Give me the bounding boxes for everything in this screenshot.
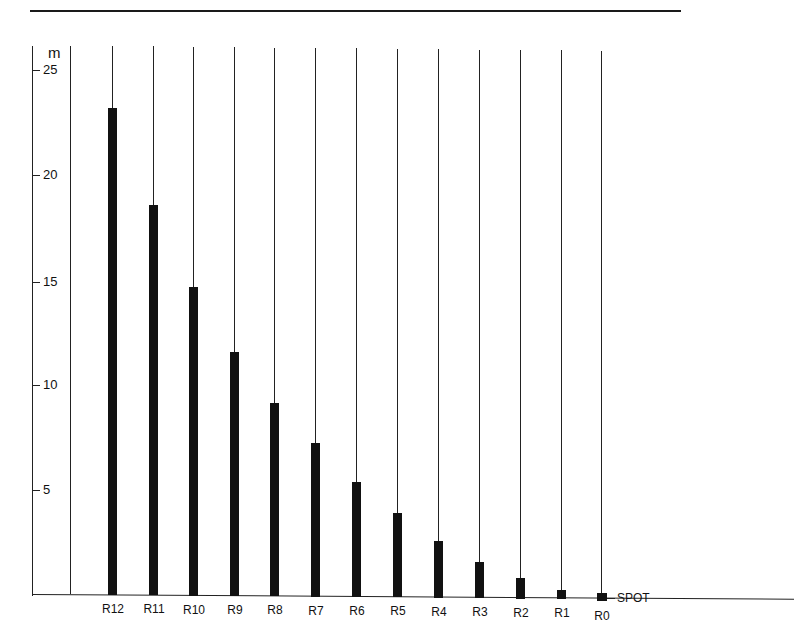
bar-r8	[270, 403, 279, 596]
guide-line	[601, 51, 602, 597]
x-label-r5: R5	[390, 604, 405, 618]
guide-line	[193, 47, 194, 287]
y-tick-label: 20	[43, 167, 57, 182]
bar-r3	[475, 562, 484, 598]
bar-r5	[393, 513, 402, 597]
bar-r0	[597, 593, 607, 601]
y-tick	[32, 175, 40, 176]
x-label-r8: R8	[267, 603, 282, 617]
spot-leader-line	[607, 598, 615, 599]
bar-r1	[557, 590, 566, 598]
y-tick	[32, 70, 40, 71]
bar-r7	[311, 443, 320, 596]
bar-r12	[108, 108, 117, 595]
x-label-r0: R0	[594, 609, 609, 623]
x-label-r12: R12	[102, 602, 124, 616]
bar-r6	[352, 482, 361, 598]
guide-line	[479, 50, 480, 563]
x-label-r4: R4	[431, 605, 446, 619]
top-rule	[30, 10, 681, 12]
spot-label: SPOT	[617, 591, 650, 605]
x-label-r2: R2	[513, 606, 528, 620]
y-tick	[32, 385, 40, 386]
y-axis	[32, 46, 33, 596]
guide-line	[438, 49, 439, 541]
x-label-r9: R9	[227, 603, 242, 617]
guide-line	[397, 49, 398, 514]
guide-line	[356, 48, 357, 481]
y-tick	[32, 490, 40, 491]
x-label-r3: R3	[472, 605, 487, 619]
guide-line	[315, 48, 316, 443]
y-tick	[32, 282, 40, 283]
x-label-r6: R6	[349, 604, 364, 618]
guide-line	[112, 46, 113, 108]
x-label-r10: R10	[183, 603, 205, 617]
x-label-r1: R1	[554, 606, 569, 620]
bar-r10	[189, 287, 198, 596]
x-label-r7: R7	[308, 604, 323, 618]
guide-line	[153, 46, 154, 204]
bar-r11	[149, 205, 158, 596]
y-tick-label: 15	[43, 274, 57, 289]
y-axis-unit: m	[48, 44, 61, 61]
guide-line	[561, 50, 562, 590]
guide-line	[70, 46, 71, 594]
y-tick-label: 25	[43, 62, 57, 77]
y-tick-label: 5	[43, 482, 50, 497]
guide-line	[520, 50, 521, 578]
y-tick-label: 10	[43, 377, 57, 392]
guide-line	[274, 48, 275, 404]
guide-line	[234, 47, 235, 352]
x-axis	[32, 594, 794, 600]
x-label-r11: R11	[143, 602, 164, 616]
bar-r2	[516, 578, 525, 599]
bar-r4	[434, 541, 443, 598]
bar-r9	[230, 352, 239, 596]
